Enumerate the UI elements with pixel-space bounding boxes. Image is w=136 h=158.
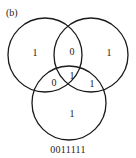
region-ab-only: 0	[70, 46, 75, 57]
region-a-only: 1	[33, 47, 38, 58]
region-c-only: 1	[70, 108, 75, 119]
region-bc-only: 1	[90, 78, 95, 89]
region-abc: 1	[70, 70, 75, 81]
region-ac-only: 0	[52, 77, 57, 88]
binary-code-caption: 0011111	[0, 144, 136, 155]
region-b-only: 1	[107, 47, 112, 58]
venn-diagram	[0, 0, 136, 158]
